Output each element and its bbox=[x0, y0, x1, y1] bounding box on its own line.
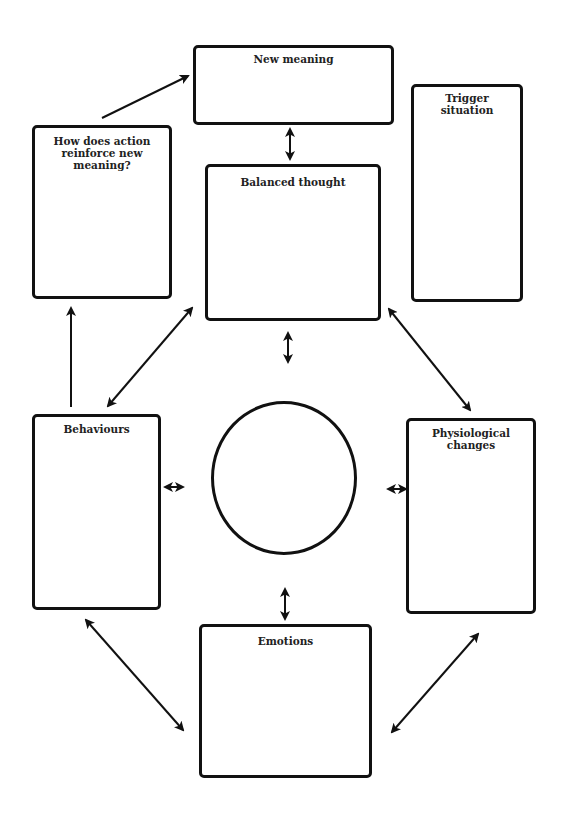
box-new-meaning[interactable]: New meaning bbox=[193, 45, 394, 125]
center-circle[interactable] bbox=[211, 401, 357, 555]
box-emotions-label: Emotions bbox=[202, 627, 369, 647]
arrow-behaviours-balanced-thought bbox=[108, 308, 192, 406]
box-balanced-thought-label: Balanced thought bbox=[208, 167, 378, 188]
box-how-does-action-label: How does action reinforce new meaning? bbox=[35, 128, 169, 171]
box-behaviours-label: Behaviours bbox=[35, 417, 158, 435]
box-new-meaning-label: New meaning bbox=[196, 48, 391, 65]
arrow-action-to-new-meaning bbox=[102, 76, 188, 118]
box-balanced-thought[interactable]: Balanced thought bbox=[205, 164, 381, 321]
arrow-physiological-emotions bbox=[392, 634, 478, 732]
arrow-behaviours-emotions bbox=[86, 620, 183, 730]
box-physiological-changes[interactable]: Physiological changes bbox=[406, 418, 536, 614]
box-physiological-changes-label: Physiological changes bbox=[409, 421, 533, 451]
box-how-does-action[interactable]: How does action reinforce new meaning? bbox=[32, 125, 172, 299]
box-emotions[interactable]: Emotions bbox=[199, 624, 372, 778]
arrow-balanced-thought-physiological bbox=[389, 309, 470, 410]
box-behaviours[interactable]: Behaviours bbox=[32, 414, 161, 610]
box-trigger-situation-label: Trigger situation bbox=[414, 87, 520, 116]
box-trigger-situation[interactable]: Trigger situation bbox=[411, 84, 523, 302]
